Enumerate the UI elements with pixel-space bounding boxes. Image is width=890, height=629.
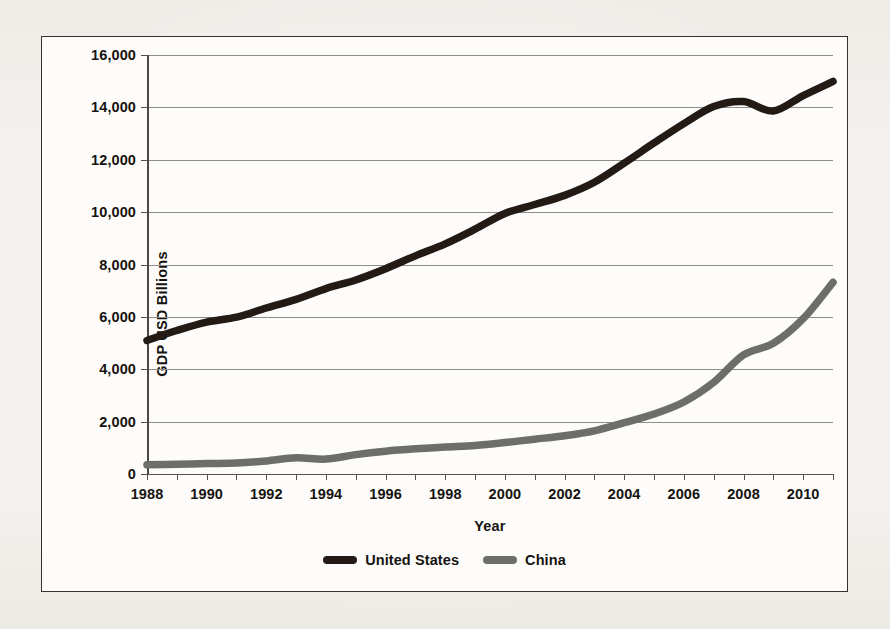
x-axis-tick-label: 2008	[727, 486, 760, 502]
x-axis-tick	[803, 474, 804, 480]
x-axis-tick	[714, 474, 715, 480]
x-axis-tick	[744, 474, 745, 480]
x-axis-tick	[773, 474, 774, 480]
y-axis-tick-label: 14,000	[91, 99, 136, 115]
series-line-united-states	[147, 81, 833, 340]
y-axis-tick-label: 6,000	[99, 309, 136, 325]
x-axis-tick	[624, 474, 625, 480]
y-axis-tick-label: 10,000	[91, 204, 136, 220]
x-axis-tick-label: 1988	[131, 486, 164, 502]
x-axis-tick	[386, 474, 387, 480]
x-axis-tick-label: 1994	[310, 486, 343, 502]
series-lines	[147, 55, 833, 474]
x-axis-tick-label: 1996	[369, 486, 402, 502]
x-axis-tick	[326, 474, 327, 480]
x-axis-tick-label: 2006	[668, 486, 701, 502]
x-axis-tick	[207, 474, 208, 480]
y-axis-tick-label: 0	[128, 466, 136, 482]
x-axis-tick	[236, 474, 237, 480]
x-axis-tick	[505, 474, 506, 480]
x-axis-tick	[177, 474, 178, 480]
legend-label: United States	[365, 552, 459, 568]
x-axis-tick-label: 2010	[787, 486, 820, 502]
x-axis-tick	[415, 474, 416, 480]
y-axis-tick-label: 16,000	[91, 47, 136, 63]
x-axis-tick	[535, 474, 536, 480]
page-background: GDP USD Billions Year 02,0004,0006,0008,…	[0, 0, 890, 629]
x-axis-tick	[475, 474, 476, 480]
x-axis-tick	[684, 474, 685, 480]
x-axis-tick-label: 1990	[190, 486, 223, 502]
y-axis-tick-label: 4,000	[99, 361, 136, 377]
x-axis-tick	[833, 474, 834, 480]
chart-frame: GDP USD Billions Year 02,0004,0006,0008,…	[41, 36, 848, 592]
y-axis-tick-label: 2,000	[99, 414, 136, 430]
x-axis-tick	[296, 474, 297, 480]
legend-swatch-icon	[323, 556, 357, 564]
gridline	[147, 474, 833, 475]
x-axis-title: Year	[147, 518, 833, 534]
x-axis-tick-label: 2004	[608, 486, 641, 502]
x-axis-tick	[654, 474, 655, 480]
y-axis-tick-label: 12,000	[91, 152, 136, 168]
x-axis-tick	[445, 474, 446, 480]
x-axis-tick	[565, 474, 566, 480]
x-axis-tick-label: 1998	[429, 486, 462, 502]
x-axis-tick-label: 2000	[489, 486, 522, 502]
legend-label: China	[525, 552, 566, 568]
x-axis-tick	[356, 474, 357, 480]
legend-item[interactable]: China	[483, 552, 566, 568]
legend-swatch-icon	[483, 556, 517, 564]
y-axis-tick-label: 8,000	[99, 257, 136, 273]
x-axis-tick	[594, 474, 595, 480]
x-axis-tick-label: 1992	[250, 486, 283, 502]
legend-item[interactable]: United States	[323, 552, 459, 568]
x-axis-tick	[266, 474, 267, 480]
x-axis-tick-label: 2002	[548, 486, 581, 502]
x-axis-tick	[147, 474, 148, 480]
plot-area: 02,0004,0006,0008,00010,00012,00014,0001…	[147, 55, 833, 474]
chart-legend: United StatesChina	[42, 552, 847, 568]
